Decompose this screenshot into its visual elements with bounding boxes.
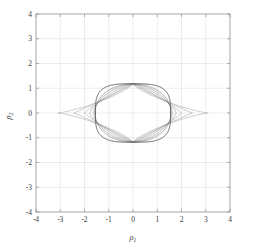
figure-container: -4-3-2-101234 -4-3-2-101234 ρ1 ρ2 (0, 0, 253, 249)
y-tick-label: -1 (26, 133, 32, 142)
y-tick-label: -3 (26, 183, 32, 192)
y-tick-label: 4 (28, 10, 32, 19)
x-tick-label: -2 (81, 215, 87, 224)
y-tick-label: -2 (26, 158, 32, 167)
x-tick-label: 3 (204, 215, 208, 224)
x-tick-label: -1 (106, 215, 112, 224)
y-tick-label: 2 (28, 59, 32, 68)
y-tick-label: 3 (28, 34, 32, 43)
x-tick-label: -4 (33, 215, 39, 224)
x-tick-label: 2 (180, 215, 184, 224)
x-tick-label: 4 (228, 215, 232, 224)
x-tick-label: 0 (131, 215, 135, 224)
y-tick-label: 0 (28, 109, 32, 118)
x-tick-label: -3 (57, 215, 63, 224)
y-tick-label: -4 (26, 208, 32, 217)
x-tick-label: 1 (155, 215, 159, 224)
y-tick-label: 1 (28, 84, 32, 93)
rho1-rho2-contour-plot: -4-3-2-101234 -4-3-2-101234 ρ1 ρ2 (0, 0, 253, 249)
